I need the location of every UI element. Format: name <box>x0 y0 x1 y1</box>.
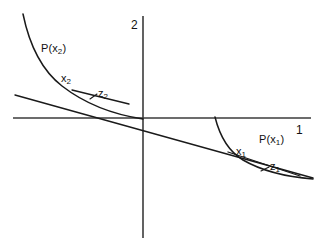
x-axis-tick-label: 1 <box>296 124 303 136</box>
label-curve-p-x1-close: ) <box>280 133 284 145</box>
label-point-x2-sub: 2 <box>67 77 72 86</box>
label-point-x1-sub: 1 <box>242 150 247 159</box>
label-curve-p-x2-base: P(x <box>41 42 58 54</box>
label-point-z1: z1 <box>270 161 280 172</box>
label-point-z1-sub: 1 <box>276 165 281 174</box>
label-point-x2-base: x <box>61 72 67 84</box>
label-point-z1-base: z <box>270 160 276 172</box>
label-curve-p-x1-base: P(x <box>259 133 276 145</box>
label-curve-p-x1-sub: 1 <box>276 138 281 147</box>
label-curve-p-x2-close: ) <box>62 42 66 54</box>
label-point-z2-sub: 2 <box>104 92 109 101</box>
label-point-z2: z2 <box>98 88 108 99</box>
label-curve-p-x2: P(x2) <box>41 43 66 54</box>
label-point-x1-base: x <box>236 145 242 157</box>
label-curve-p-x1: P(x1) <box>259 134 284 145</box>
label-point-x2: x2 <box>61 73 71 84</box>
math-diagram-figure: 2 1 P(x2) x2 z2 P(x1) x1 z1 <box>0 0 327 249</box>
label-point-z2-base: z <box>98 87 104 99</box>
diagram-canvas <box>0 0 327 249</box>
y-axis-tick-label: 2 <box>131 19 138 31</box>
label-curve-p-x2-sub: 2 <box>58 47 63 56</box>
label-point-x1: x1 <box>236 146 246 157</box>
